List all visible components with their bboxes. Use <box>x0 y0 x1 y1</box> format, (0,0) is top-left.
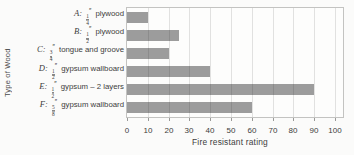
inch-mark: ″ <box>52 44 54 51</box>
category-letter: D: <box>39 63 50 73</box>
gridline <box>189 8 190 117</box>
category-letter: C: <box>37 45 48 55</box>
category-description: gypsum wallboard <box>59 64 124 73</box>
fraction: 58 <box>52 105 55 117</box>
category-label-column: A: 14″ plywoodB: 12″ plywoodC: 34″ tongu… <box>0 7 124 118</box>
x-tick-label: 0 <box>125 126 129 135</box>
tick-mark <box>252 118 253 121</box>
tick-mark <box>169 118 170 121</box>
gridline <box>252 8 253 117</box>
x-tick-label: 50 <box>227 126 236 135</box>
category-description: plywood <box>93 28 124 37</box>
x-tick-label: 80 <box>289 126 298 135</box>
gridline <box>314 8 315 117</box>
x-tick-label: 100 <box>328 126 341 135</box>
category-description: gypsum wallboard <box>59 100 124 109</box>
inch-mark: ″ <box>89 26 91 33</box>
gridline <box>273 8 274 117</box>
tick-mark <box>127 118 128 121</box>
x-tick-label: 40 <box>206 126 215 135</box>
tick-mark <box>148 118 149 121</box>
category-label-F: F: 58″ gypsum wallboard <box>0 98 124 117</box>
tick-mark <box>293 118 294 121</box>
x-tick-label: 70 <box>269 126 278 135</box>
category-description: gypsum – 2 layers <box>59 82 124 91</box>
category-letter: B: <box>74 27 84 37</box>
tick-mark <box>210 118 211 121</box>
category-description: plywood <box>93 9 124 18</box>
category-label-A: A: 14″ plywood <box>0 7 124 26</box>
tick-mark <box>189 118 190 121</box>
bar-E <box>127 84 314 95</box>
tick-mark <box>314 118 315 121</box>
tick-mark <box>273 118 274 121</box>
category-label-C: C: 34″ tongue and groove <box>0 44 124 63</box>
tick-mark <box>231 118 232 121</box>
gridline <box>293 8 294 117</box>
x-tick-label: 10 <box>144 126 153 135</box>
inch-mark: ″ <box>54 80 56 87</box>
category-label-B: B: 12″ plywood <box>0 26 124 45</box>
x-axis-tick-labels: 0102030405060708090100 <box>0 126 354 136</box>
category-letter: E: <box>39 81 49 91</box>
gridline <box>231 8 232 117</box>
fire-resistance-bar-chart: Type of Wood A: 14″ plywoodB: 12″ plywoo… <box>0 0 354 155</box>
x-axis-label: Fire resistant rating <box>126 137 334 147</box>
x-tick-label: 30 <box>185 126 194 135</box>
inch-mark: ″ <box>89 7 91 14</box>
plot-area <box>126 7 344 118</box>
x-tick-label: 90 <box>310 126 319 135</box>
category-label-E: E: 12″ gypsum – 2 layers <box>0 80 124 99</box>
inch-mark: ″ <box>55 98 57 105</box>
category-letter: F: <box>40 99 50 109</box>
inch-mark: ″ <box>55 62 57 69</box>
tick-mark <box>335 118 336 121</box>
x-tick-label: 60 <box>248 126 257 135</box>
gridline <box>169 8 170 117</box>
category-letter: A: <box>74 8 84 18</box>
gridline <box>210 8 211 117</box>
gridline <box>335 8 336 117</box>
category-label-D: D: 12″ gypsum wallboard <box>0 62 124 81</box>
bar-B <box>127 30 179 41</box>
x-tick-label: 20 <box>165 126 174 135</box>
bar-A <box>127 12 148 23</box>
category-description: tongue and groove <box>57 46 124 55</box>
gridline <box>148 8 149 117</box>
